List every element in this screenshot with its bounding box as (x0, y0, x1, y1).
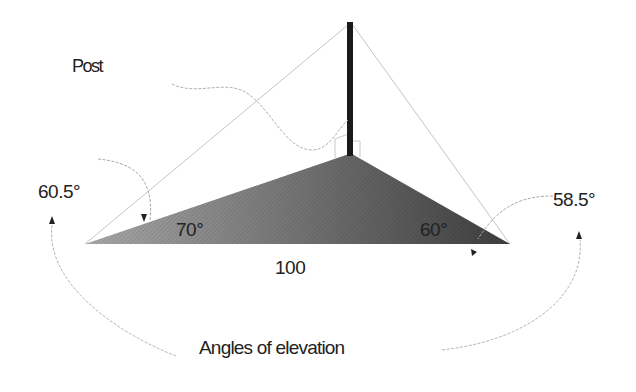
post-label: Post (72, 57, 102, 75)
left-angle-arrowhead (141, 214, 147, 222)
base-length-label: 100 (275, 258, 305, 277)
left-bracket-arc (51, 225, 176, 356)
diagram-title: Angles of elevation (199, 338, 344, 357)
left-bracket-arrowhead (49, 216, 55, 224)
post (347, 22, 353, 156)
right-base-angle-label: 60° (420, 220, 447, 239)
right-bracket-arrowhead (576, 231, 582, 239)
right-bracket-arc (442, 240, 580, 350)
left-base-angle-label: 70° (176, 220, 203, 239)
right-angle-arrowhead (471, 249, 477, 256)
angles-of-elevation-diagram: Post 60.5° 58.5° 70° 60° 100 Angles of e… (0, 0, 636, 392)
left-elevation-angle-label: 60.5° (38, 182, 80, 201)
right-elevation-angle-label: 58.5° (553, 190, 595, 209)
post-pointer-line (172, 84, 348, 150)
